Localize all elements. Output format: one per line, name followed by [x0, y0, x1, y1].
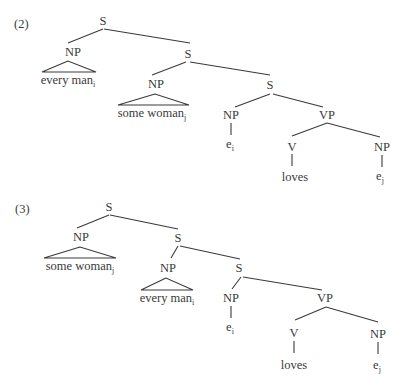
leaf-trace-j: ej — [376, 169, 384, 185]
node-s-root: S — [106, 200, 113, 214]
branch-line — [273, 94, 323, 107]
node-np-trace-i: NP — [223, 108, 239, 122]
node-vp: VP — [319, 108, 335, 122]
leaf-some-woman: some womanj — [118, 106, 187, 122]
leaf-loves: loves — [282, 170, 309, 184]
triangle-icon — [118, 94, 189, 105]
leaf-trace-j: ej — [373, 358, 381, 374]
node-np-every-man: NP — [65, 45, 81, 59]
branch-line — [243, 277, 322, 290]
branch-line — [110, 215, 178, 229]
leaf-some-woman: some womanj — [46, 259, 115, 275]
branch-line — [190, 62, 270, 75]
triangle-icon — [44, 247, 116, 258]
leaf-trace-i: ei — [226, 320, 235, 336]
leaf-trace-i: ei — [226, 137, 235, 153]
branch-line — [295, 307, 326, 320]
leaf-loves: loves — [281, 358, 308, 372]
node-np-every-man: NP — [160, 261, 176, 275]
node-np-trace-i: NP — [223, 291, 239, 305]
node-v: V — [289, 326, 298, 340]
tree-example-2: (2) S NP every mani S NP some womanj S N… — [14, 14, 390, 185]
branch-line — [171, 246, 178, 258]
node-s-3: S — [236, 261, 243, 275]
node-np-some-woman: NP — [148, 77, 164, 91]
branch-line — [180, 246, 240, 259]
node-np-trace-j: NP — [374, 140, 390, 154]
node-s-3: S — [267, 78, 274, 92]
tree-example-3: (3) S NP some womanj S NP every mani S N… — [15, 200, 386, 374]
branch-line — [68, 29, 103, 43]
branch-line — [235, 94, 270, 107]
node-s-2: S — [185, 47, 192, 61]
syntax-tree-figure: (2) S NP every mani S NP some womanj S N… — [0, 0, 403, 385]
leaf-every-man: every mani — [140, 291, 195, 307]
node-v: V — [287, 140, 296, 154]
branch-line — [326, 307, 378, 322]
node-np-some-woman: NP — [73, 230, 89, 244]
node-vp: VP — [317, 291, 333, 305]
branch-line — [104, 29, 190, 43]
branch-line — [292, 123, 327, 136]
node-s-root: S — [100, 14, 107, 28]
triangle-icon — [141, 278, 193, 290]
triangle-icon — [42, 61, 96, 72]
branch-line — [232, 277, 241, 289]
branch-line — [152, 62, 186, 75]
example-number-2: (2) — [14, 17, 29, 31]
node-s-2: S — [175, 231, 182, 245]
branch-line — [77, 215, 109, 228]
example-number-3: (3) — [15, 202, 30, 216]
leaf-every-man: every mani — [41, 73, 96, 89]
branch-line — [327, 123, 380, 137]
node-np-trace-j: NP — [370, 327, 386, 341]
